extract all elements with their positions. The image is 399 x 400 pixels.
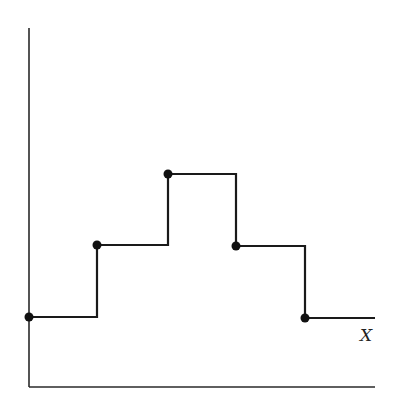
closed-endpoint-dot bbox=[232, 242, 241, 251]
step-function-diagram: X bbox=[0, 0, 399, 400]
closed-endpoint-dot bbox=[93, 241, 102, 250]
closed-endpoint-dot bbox=[301, 314, 310, 323]
step-function-line bbox=[29, 174, 375, 318]
closed-endpoint-dot bbox=[164, 170, 173, 179]
x-axis-label: X bbox=[358, 325, 373, 345]
closed-endpoint-dot bbox=[25, 313, 34, 322]
